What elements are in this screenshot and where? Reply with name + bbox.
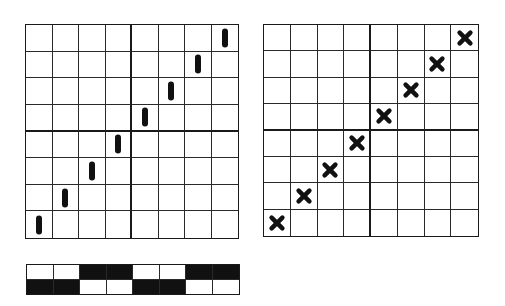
grid-cell	[425, 78, 452, 104]
grid-cell	[212, 185, 239, 212]
grid-cell	[318, 183, 345, 209]
vertical-bar-mark-icon	[195, 55, 201, 74]
grid-cell	[451, 183, 478, 209]
vertical-bar-mark-icon	[142, 108, 148, 127]
grid-cell	[185, 52, 212, 79]
grid-cell	[53, 78, 80, 105]
strip-cell-white	[133, 265, 160, 280]
grid-cell	[398, 131, 425, 157]
grid-cell	[185, 105, 212, 132]
strip-cell-white	[54, 265, 81, 280]
grid-cell	[344, 104, 371, 130]
grid-cell	[79, 211, 106, 238]
grid-cell	[53, 132, 80, 159]
grid-cell	[53, 105, 80, 132]
grid-cell	[212, 78, 239, 105]
grid-cell	[106, 158, 133, 185]
grid-cell	[344, 51, 371, 77]
grid-cell	[291, 210, 318, 236]
grid-cell	[291, 25, 318, 51]
grid-cell	[159, 132, 186, 159]
vertical-bar-mark-icon	[222, 28, 228, 47]
x-cross-mark-icon	[348, 134, 366, 152]
vertical-bar-mark-icon	[36, 215, 42, 234]
grid-cell	[106, 211, 133, 238]
grid-cell	[212, 158, 239, 185]
grid-cell	[318, 210, 345, 236]
strip-cell-black	[133, 280, 160, 295]
grid-cell	[291, 104, 318, 130]
grid-cell	[371, 157, 398, 183]
grid-cell	[451, 157, 478, 183]
grid-cell	[132, 78, 159, 105]
grid-cell	[132, 52, 159, 79]
grid-cell	[185, 211, 212, 238]
grid-cell	[318, 157, 345, 183]
grid-cell	[398, 51, 425, 77]
grid-cell	[159, 158, 186, 185]
vertical-bar-mark-icon	[115, 135, 121, 154]
grid-cell	[212, 25, 239, 52]
left-grid-bar-diagonal	[25, 24, 239, 239]
grid-cell	[318, 104, 345, 130]
grid-cell	[344, 25, 371, 51]
grid-cell	[79, 25, 106, 52]
grid-cell	[26, 25, 53, 52]
grid-cell	[132, 158, 159, 185]
grid-cell	[53, 52, 80, 79]
strip-cell-black	[54, 280, 81, 295]
grid-cell	[398, 104, 425, 130]
grid-cell	[106, 52, 133, 79]
grid-cell	[26, 211, 53, 238]
strip-cell-white	[27, 265, 54, 280]
strip-cell-black	[80, 265, 107, 280]
grid-cell	[344, 131, 371, 157]
grid-cell	[106, 185, 133, 212]
grid-cell	[371, 51, 398, 77]
grid-cell	[159, 211, 186, 238]
grid-cell	[451, 104, 478, 130]
grid-cell	[344, 157, 371, 183]
checker-strip	[26, 264, 240, 295]
grid-cell	[53, 185, 80, 212]
grid-cell	[132, 185, 159, 212]
grid-cell	[159, 52, 186, 79]
strip-cell-black	[27, 280, 54, 295]
grid-cell	[398, 157, 425, 183]
grid-cell	[26, 185, 53, 212]
strip-cell-black	[186, 265, 213, 280]
grid-cell	[318, 25, 345, 51]
grid-cell	[291, 157, 318, 183]
grid-cell	[318, 78, 345, 104]
grid-cell	[425, 104, 452, 130]
grid-cell	[344, 183, 371, 209]
grid-cell	[398, 25, 425, 51]
grid-cell	[264, 131, 291, 157]
grid-cell	[425, 157, 452, 183]
grid-cell	[53, 158, 80, 185]
grid-cell	[26, 105, 53, 132]
grid-cell	[398, 78, 425, 104]
grid-cell	[264, 25, 291, 51]
grid-cell	[264, 104, 291, 130]
grid-cell	[264, 183, 291, 209]
grid-cell	[318, 51, 345, 77]
x-cross-mark-icon	[321, 161, 339, 179]
grid-cell	[212, 52, 239, 79]
grid-cell	[106, 25, 133, 52]
grid-cell	[79, 158, 106, 185]
grid-cell	[371, 104, 398, 130]
vertical-bar-mark-icon	[168, 82, 174, 101]
grid-cell	[185, 132, 212, 159]
grid-cell	[106, 105, 133, 132]
grid-cell	[264, 157, 291, 183]
grid-cell	[371, 78, 398, 104]
strip-cell-black	[160, 280, 187, 295]
strip-cell-black	[213, 265, 240, 280]
grid-cell	[106, 132, 133, 159]
grid-cell	[212, 105, 239, 132]
grid-cell	[159, 185, 186, 212]
grid-cell	[159, 105, 186, 132]
grid-cell	[398, 183, 425, 209]
strip-cell-white	[186, 280, 213, 295]
